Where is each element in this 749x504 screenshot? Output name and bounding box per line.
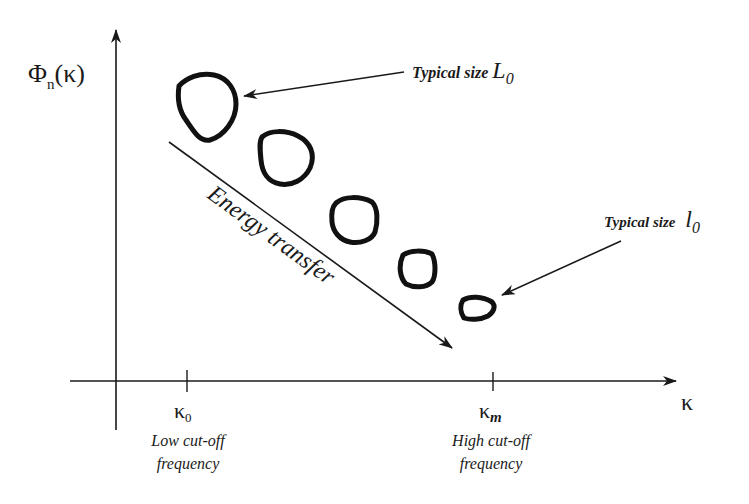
eddy-1 (178, 74, 236, 140)
large-eddy-pointer (244, 72, 404, 96)
tick-label-km: κm (479, 398, 502, 425)
large-eddy-label: Typical size L0 (412, 57, 514, 87)
eddy-5 (461, 297, 494, 319)
eddy-3 (332, 198, 377, 243)
x-axis (70, 370, 676, 392)
eddy-2 (260, 132, 312, 185)
x-axis-label: κ (681, 389, 693, 415)
low-cutoff-caption-line2: frequency (157, 455, 220, 473)
low-cutoff-caption-line1: Low cut-off (150, 432, 227, 450)
small-eddy-label: Typical size l0 (604, 206, 700, 236)
energy-cascade-diagram: Φn(κ) κ κ0 Low cut-off frequency κm High… (0, 0, 749, 504)
eddy-4 (400, 251, 435, 287)
small-eddy-pointer (502, 241, 621, 295)
energy-transfer-arrow (169, 142, 452, 348)
energy-transfer-label: Energy transfer (202, 179, 340, 289)
y-axis-label: Φn(κ) (28, 59, 85, 92)
high-cutoff-caption-line1: High cut-off (451, 432, 532, 450)
high-cutoff-caption-line2: frequency (460, 455, 523, 473)
tick-label-k0: κ0 (174, 398, 192, 425)
